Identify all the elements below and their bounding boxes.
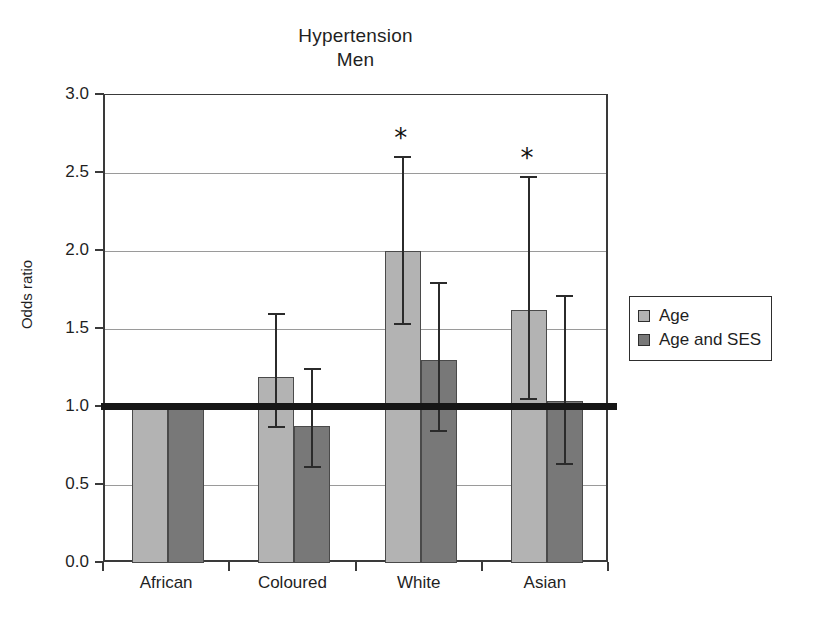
- y-axis-title: Odds ratio: [18, 205, 35, 385]
- chart-legend: AgeAge and SES: [629, 296, 772, 361]
- y-axis-tick-label: 0.0: [43, 552, 89, 572]
- x-axis-tick-mark: [102, 562, 104, 571]
- y-axis-tick-label: 2.0: [43, 240, 89, 260]
- chart-figure: Hypertension Men Odds ratio 0.00.51.01.5…: [0, 0, 820, 619]
- gridline: [105, 173, 606, 174]
- x-axis-category-label: Asian: [475, 573, 615, 593]
- error-bar-cap-lower: [430, 430, 447, 432]
- legend-swatch-icon: [638, 310, 650, 322]
- x-axis-tick-mark: [481, 562, 483, 571]
- error-bar-cap-upper: [304, 368, 321, 370]
- legend-item[interactable]: Age: [638, 304, 761, 328]
- reference-line: [101, 403, 617, 410]
- error-bar-cap-lower: [556, 463, 573, 465]
- error-bar-cap-lower: [520, 398, 537, 400]
- y-axis-tick-label: 1.5: [43, 318, 89, 338]
- error-bar-cap-upper: [556, 295, 573, 297]
- bar: [132, 407, 168, 563]
- y-axis-tick-labels: 0.00.51.01.52.02.53.0: [37, 94, 89, 562]
- significance-marker: *: [515, 145, 539, 171]
- chart-title-line1: Hypertension: [298, 25, 412, 46]
- gridline: [105, 251, 606, 252]
- x-axis-tick-mark: [355, 562, 357, 571]
- error-bar-line: [564, 295, 566, 463]
- chart-title-line2: Men: [103, 48, 608, 72]
- error-bar-cap-lower: [304, 466, 321, 468]
- y-axis-tick-label: 3.0: [43, 84, 89, 104]
- y-axis-tick-label: 2.5: [43, 162, 89, 182]
- legend-item-label: Age: [659, 306, 689, 326]
- x-axis-category-label: White: [349, 573, 489, 593]
- x-axis-category-label: Coloured: [222, 573, 362, 593]
- x-axis-tick-mark: [228, 562, 230, 571]
- error-bar-cap-upper: [394, 156, 411, 158]
- y-axis-tick-label: 0.5: [43, 474, 89, 494]
- error-bar-cap-upper: [520, 176, 537, 178]
- legend-item-label: Age and SES: [659, 330, 761, 350]
- x-axis-category-label: African: [96, 573, 236, 593]
- error-bar-line: [311, 368, 313, 466]
- legend-swatch-icon: [638, 334, 650, 346]
- error-bar-cap-upper: [430, 282, 447, 284]
- error-bar-line: [402, 156, 404, 323]
- chart-title: Hypertension Men: [103, 24, 608, 72]
- significance-marker: *: [389, 125, 413, 151]
- y-axis-tick-label: 1.0: [43, 396, 89, 416]
- bar: [168, 407, 204, 563]
- x-axis-tick-mark: [607, 562, 609, 571]
- error-bar-line: [528, 176, 530, 398]
- legend-item[interactable]: Age and SES: [638, 328, 761, 352]
- error-bar-cap-lower: [394, 323, 411, 325]
- error-bar-cap-upper: [268, 313, 285, 315]
- error-bar-cap-lower: [268, 426, 285, 428]
